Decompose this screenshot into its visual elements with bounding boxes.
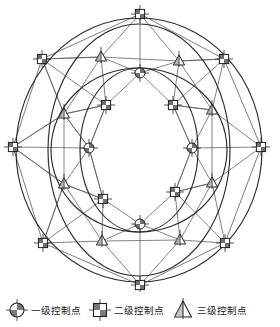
legend: 一级控制点 二级控制点 bbox=[0, 292, 280, 327]
legend-item-level-3: 三级控制点 bbox=[170, 297, 247, 323]
legend-label-level-1: 一级控制点 bbox=[31, 303, 81, 317]
outer-ellipse-narrow bbox=[48, 24, 230, 276]
inner-ellipse bbox=[80, 68, 198, 232]
legend-label-level-3: 三级控制点 bbox=[197, 303, 247, 317]
quartered-circle-cross-icon bbox=[4, 297, 30, 323]
node-o1-square[interactable] bbox=[131, 5, 149, 23]
node-i7-circle[interactable] bbox=[80, 139, 98, 157]
node-o3-square[interactable] bbox=[252, 138, 270, 156]
legend-item-level-2: 二级控制点 bbox=[87, 297, 164, 323]
node-m7-triangle[interactable] bbox=[58, 174, 69, 190]
node-m1-triangle[interactable] bbox=[95, 47, 106, 63]
node-m3-triangle[interactable] bbox=[206, 100, 217, 116]
legend-item-level-1: 一级控制点 bbox=[4, 297, 81, 323]
node-o7-square[interactable] bbox=[4, 138, 22, 156]
legend-label-level-2: 二级控制点 bbox=[114, 303, 164, 317]
node-o8-square[interactable] bbox=[33, 50, 51, 68]
node-m8-triangle[interactable] bbox=[58, 104, 69, 120]
quartered-square-cross-icon bbox=[87, 297, 113, 323]
node-i6-square[interactable] bbox=[94, 190, 112, 208]
control-network-diagram bbox=[0, 0, 280, 292]
node-i5-circle[interactable] bbox=[131, 215, 149, 233]
node-m2-triangle[interactable] bbox=[173, 51, 184, 67]
figure-page: 一级控制点 二级控制点 bbox=[0, 0, 280, 327]
node-o6-square[interactable] bbox=[34, 234, 52, 252]
triangle-with-vertical-line-icon bbox=[170, 297, 196, 323]
node-o2-square[interactable] bbox=[215, 50, 233, 68]
network-svg bbox=[0, 0, 280, 292]
